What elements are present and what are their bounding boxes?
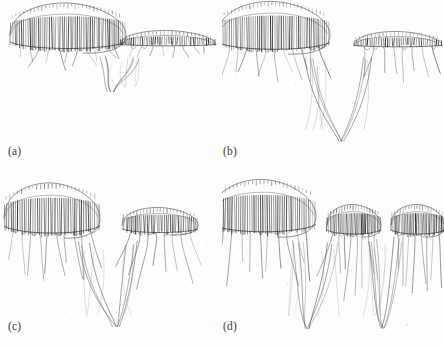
figure-panel-d: (d): [222, 174, 444, 348]
panel-c-drawing: [0, 174, 222, 348]
figure-container: (a) (b) (c) (d): [0, 0, 444, 348]
figure-panel-c: (c): [0, 174, 222, 348]
panel-a-drawing: [0, 0, 222, 174]
figure-panel-a: (a): [0, 0, 222, 174]
panel-b-drawing: [222, 0, 444, 174]
panel-a-label: (a): [8, 146, 21, 158]
panel-d-drawing: [222, 174, 444, 348]
panel-b-label: (b): [223, 146, 237, 158]
figure-panel-b: (b): [222, 0, 444, 174]
panel-c-label: (c): [8, 321, 21, 333]
panel-d-label: (d): [223, 321, 237, 333]
